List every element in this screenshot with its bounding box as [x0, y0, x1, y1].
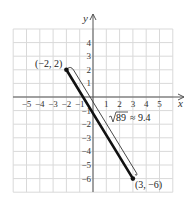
coordinate-plane-chart: −5−4−3−2−1123454321−1−2−3−4−5−6 (−2, 2) …: [0, 0, 193, 197]
y-tick-label: −2: [81, 119, 91, 129]
x-tick-label: 2: [117, 99, 122, 109]
x-tick-label: 4: [144, 99, 149, 109]
x-tick-label: 3: [131, 99, 136, 109]
y-axis-label: y: [82, 12, 88, 24]
radical-sign-icon: [109, 112, 116, 122]
x-tick-label: 1: [104, 99, 109, 109]
y-tick-label: 3: [87, 51, 92, 61]
radicand-text: 89: [116, 112, 126, 123]
approx-text: ≈ 9.4: [130, 112, 151, 123]
y-tick-label: 4: [87, 38, 92, 48]
y-tick-label: −4: [81, 146, 91, 156]
point-a-marker: [64, 68, 69, 73]
x-tick-label: −4: [35, 99, 45, 109]
y-tick-label: −5: [81, 160, 91, 170]
y-tick-label: −6: [81, 174, 91, 184]
point-label-b: (3, −6): [135, 179, 162, 191]
y-tick-label: 1: [87, 78, 92, 88]
x-tick-label: −5: [22, 99, 32, 109]
y-tick-label: −3: [81, 133, 91, 143]
x-tick-label: −2: [62, 99, 72, 109]
point-label-a: (−2, 2): [35, 58, 62, 70]
length-label: 89 ≈ 9.4: [109, 112, 151, 123]
x-tick-label: −3: [48, 99, 58, 109]
x-tick-label: 5: [157, 99, 162, 109]
x-axis-label: x: [177, 97, 183, 109]
y-tick-label: 2: [87, 65, 92, 75]
